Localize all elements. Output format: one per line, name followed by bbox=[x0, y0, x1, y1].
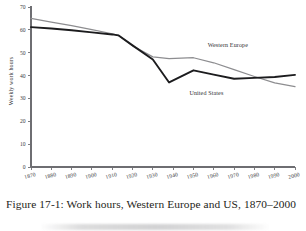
x-axis-ticks: 1870188018901900191019201930194019501960… bbox=[23, 167, 300, 180]
y-tick-label: 50 bbox=[20, 50, 26, 56]
y-tick-label: 10 bbox=[20, 141, 26, 147]
x-tick-label: 1990 bbox=[267, 171, 280, 180]
y-tick-label: 30 bbox=[20, 95, 26, 101]
y-axis-ticks: 010203040506070 bbox=[20, 4, 31, 170]
x-tick-label: 1930 bbox=[145, 171, 158, 180]
figure-container: 010203040506070 187018801890190019101920… bbox=[0, 0, 306, 231]
x-tick-label: 1980 bbox=[247, 171, 260, 180]
y-tick-label: 60 bbox=[20, 27, 26, 33]
x-tick-label: 1870 bbox=[23, 171, 36, 180]
data-series-group bbox=[31, 18, 295, 86]
x-tick-label: 1940 bbox=[166, 171, 179, 180]
y-tick-label: 40 bbox=[20, 73, 26, 79]
series-label-united-states: United States bbox=[189, 90, 223, 96]
y-axis-title: Weekly work hours bbox=[8, 56, 14, 105]
y-tick-label: 20 bbox=[20, 118, 26, 124]
work-hours-line-chart: 010203040506070 187018801890190019101920… bbox=[0, 0, 306, 196]
series-inline-labels: Western EuropeUnited States bbox=[189, 42, 248, 96]
x-tick-label: 1950 bbox=[186, 171, 199, 180]
figure-caption: Figure 17-1: Work hours, Western Europe … bbox=[6, 198, 302, 210]
y-tick-label: 70 bbox=[20, 4, 26, 10]
x-tick-label: 1920 bbox=[125, 171, 138, 180]
x-tick-label: 1880 bbox=[44, 171, 57, 180]
x-tick-label: 1900 bbox=[84, 171, 97, 180]
x-tick-label: 1960 bbox=[206, 171, 219, 180]
x-tick-label: 1970 bbox=[227, 171, 240, 180]
x-tick-label: 1910 bbox=[105, 171, 118, 180]
x-tick-label: 1890 bbox=[64, 171, 77, 180]
y-tick-label: 0 bbox=[23, 164, 26, 170]
page-scan-artifact bbox=[40, 224, 270, 230]
x-tick-label: 2000 bbox=[287, 171, 300, 180]
series-line-united-states bbox=[31, 27, 295, 82]
series-line-western-europe bbox=[31, 18, 295, 86]
series-label-western-europe: Western Europe bbox=[208, 42, 249, 48]
